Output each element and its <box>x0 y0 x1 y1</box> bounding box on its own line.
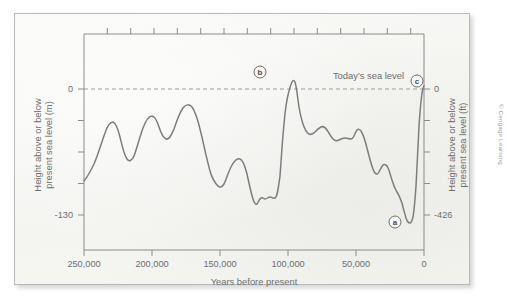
plot-frame <box>84 34 424 250</box>
sea-level-curve-main <box>84 81 424 224</box>
y-axis-right-title-part1: Height above or below <box>446 98 457 192</box>
marker-c-label: c <box>415 77 420 86</box>
figure-root: 250,000 200,000 150,000 100,000 50,000 0… <box>0 0 507 305</box>
y-axis-left-title-part1: Height above or below <box>32 98 43 192</box>
marker-a: a <box>389 216 401 228</box>
copyright-notice: © Cengage Learning <box>498 104 505 196</box>
y-left-tick-label-1: -130 <box>55 210 73 220</box>
marker-a-label: a <box>393 218 398 227</box>
x-tick-label-2: 150,000 <box>203 259 236 269</box>
y-axis-right-ticks <box>424 89 430 215</box>
y-axis-left-title-part2: present sea level (m) <box>43 101 54 189</box>
y-right-tick-label-0: 0 <box>434 84 439 94</box>
y-axis-right-title: Height above or below present sea level … <box>446 98 468 192</box>
marker-c: c <box>411 75 423 87</box>
x-axis-title: Years before present <box>211 276 298 287</box>
x-axis-tick-labels: 250,000 200,000 150,000 100,000 50,000 0 <box>67 259 426 269</box>
x-tick-label-5: 0 <box>421 259 426 269</box>
y-left-tick-label-0: 0 <box>68 84 73 94</box>
x-tick-label-1: 200,000 <box>135 259 168 269</box>
y-right-tick-label-1: -426 <box>434 210 452 220</box>
y-axis-left-title: Height above or below present sea level … <box>32 98 54 192</box>
top-axis-ticks <box>107 28 410 34</box>
marker-b-label: b <box>258 68 263 77</box>
y-axis-left-ticks <box>78 89 84 215</box>
sea-level-chart: 250,000 200,000 150,000 100,000 50,000 0… <box>0 0 507 305</box>
sea-level-label: Today's sea level <box>333 70 404 81</box>
y-axis-right-title-part2: present sea level (ft) <box>457 103 468 188</box>
x-tick-label-0: 250,000 <box>67 259 100 269</box>
x-tick-label-3: 100,000 <box>271 259 304 269</box>
marker-b: b <box>254 66 266 78</box>
x-axis-ticks <box>84 250 424 256</box>
x-tick-label-4: 50,000 <box>342 259 370 269</box>
y-axis-left-tick-labels: 0 -130 <box>55 84 73 220</box>
